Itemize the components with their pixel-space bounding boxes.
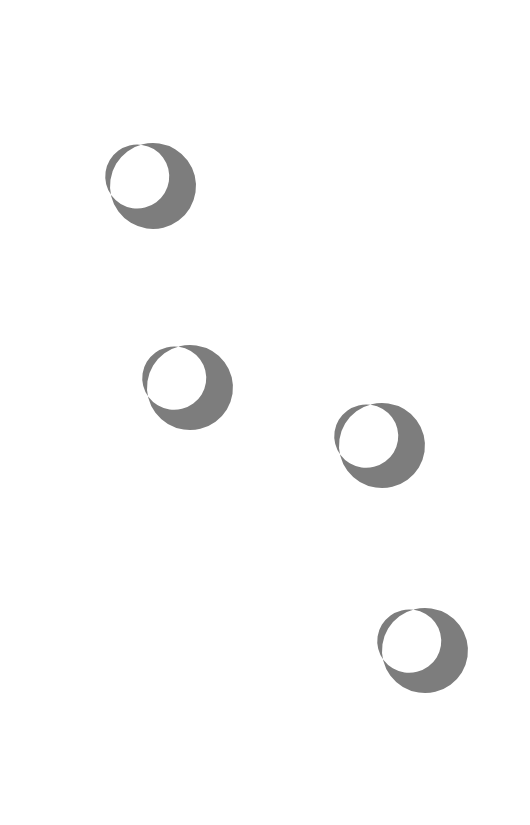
artboard: [0, 0, 530, 825]
crescent-3-path: [327, 392, 434, 497]
crescent-1-path: [98, 132, 205, 239]
crescent-shape-2: [147, 345, 233, 430]
crescent-4-path: [370, 597, 477, 702]
crescent-shape-3: [339, 403, 425, 488]
crescent-2-path: [135, 334, 242, 439]
crescent-shape-4: [382, 608, 468, 693]
crescent-shape-1: [110, 143, 196, 229]
